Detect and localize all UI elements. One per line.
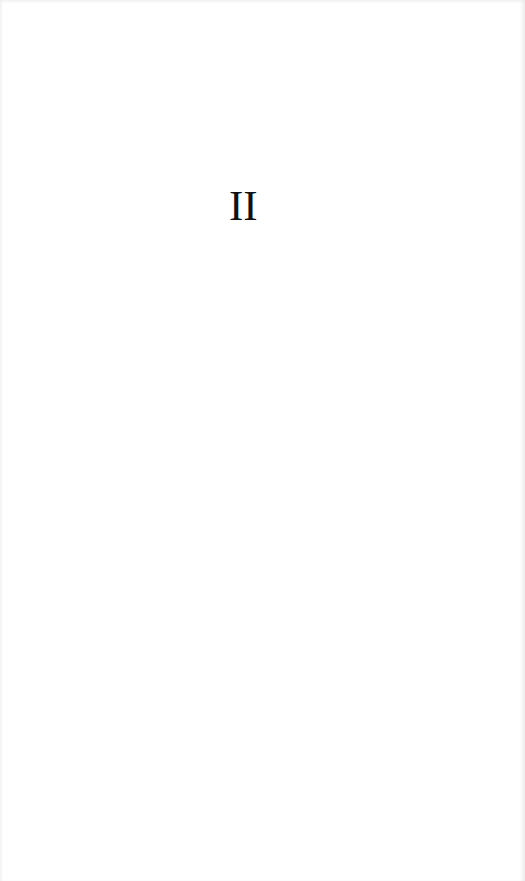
book-page: II — [0, 0, 525, 881]
part-number-heading: II — [229, 181, 258, 231]
